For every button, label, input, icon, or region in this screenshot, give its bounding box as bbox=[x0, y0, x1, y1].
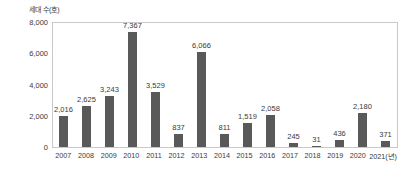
bar-value-label: 436 bbox=[333, 129, 346, 138]
x-axis-tick-label: 2009 bbox=[97, 151, 120, 161]
y-axis-tick-label: 8,000 bbox=[8, 18, 48, 27]
bar[interactable] bbox=[174, 134, 183, 147]
bar-value-label: 31 bbox=[312, 135, 320, 144]
y-axis-tick-label: 4,000 bbox=[8, 81, 48, 90]
bar-slot: 436 bbox=[328, 22, 351, 147]
x-axis-tick-label: 2008 bbox=[75, 151, 98, 161]
x-axis-tick-labels: 2007200820092010201120122013201420152016… bbox=[52, 151, 397, 161]
bar-slot: 2,180 bbox=[351, 22, 374, 147]
x-axis-tick-label: 2016 bbox=[256, 151, 279, 161]
x-axis-tick-label: 2014 bbox=[211, 151, 234, 161]
bar[interactable] bbox=[59, 116, 68, 148]
bar-slot: 3,529 bbox=[144, 22, 167, 147]
x-axis-tick-label: 2010 bbox=[120, 151, 143, 161]
bar-slot: 837 bbox=[167, 22, 190, 147]
y-axis-tick-label: 6,000 bbox=[8, 49, 48, 58]
bar-slot: 31 bbox=[305, 22, 328, 147]
bar-slot: 1,519 bbox=[236, 22, 259, 147]
x-axis-tick-label: 2020 bbox=[347, 151, 370, 161]
bar-value-label: 7,367 bbox=[123, 21, 142, 30]
bar[interactable] bbox=[243, 123, 252, 147]
bar-value-label: 2,058 bbox=[261, 104, 280, 113]
bar-value-label: 1,519 bbox=[238, 112, 257, 121]
bar-value-label: 245 bbox=[287, 132, 300, 141]
bar-value-label: 6,066 bbox=[192, 41, 211, 50]
x-axis-tick-label: 2011 bbox=[143, 151, 166, 161]
bar-slot: 2,058 bbox=[259, 22, 282, 147]
bar-slot: 811 bbox=[213, 22, 236, 147]
y-axis-tick-label: 2,000 bbox=[8, 112, 48, 121]
x-axis-tick-label: 2007 bbox=[52, 151, 75, 161]
x-axis-tick-label: 2017 bbox=[279, 151, 302, 161]
bar-slot: 371 bbox=[374, 22, 397, 147]
y-axis-title: 세대 수(호) bbox=[29, 4, 60, 14]
bar-value-label: 837 bbox=[172, 123, 185, 132]
bar-value-label: 3,529 bbox=[146, 81, 165, 90]
bar-slot: 245 bbox=[282, 22, 305, 147]
bar-value-label: 3,243 bbox=[100, 85, 119, 94]
bar-chart-figure: 세대 수(호) 02,0004,0006,0008,000 2,0162,625… bbox=[0, 0, 416, 172]
bar-value-label: 2,016 bbox=[54, 105, 73, 114]
x-axis-tick-label: 2018 bbox=[301, 151, 324, 161]
bar[interactable] bbox=[82, 106, 91, 147]
y-axis-tick-label: 0 bbox=[8, 143, 48, 152]
bar[interactable] bbox=[312, 146, 321, 147]
bar-slot: 6,066 bbox=[190, 22, 213, 147]
bar-slot: 7,367 bbox=[121, 22, 144, 147]
bar[interactable] bbox=[266, 115, 275, 147]
bar-value-label: 371 bbox=[379, 130, 392, 139]
bar[interactable] bbox=[105, 96, 114, 147]
bar[interactable] bbox=[151, 92, 160, 147]
bar[interactable] bbox=[358, 113, 367, 147]
bar[interactable] bbox=[220, 134, 229, 147]
bar-slot: 2,625 bbox=[75, 22, 98, 147]
x-axis-tick-label: 2012 bbox=[165, 151, 188, 161]
x-axis-tick-label: 2015 bbox=[233, 151, 256, 161]
x-axis-tick-label: 2019 bbox=[324, 151, 347, 161]
bar[interactable] bbox=[128, 32, 137, 147]
bar[interactable] bbox=[381, 141, 390, 147]
bar-slot: 2,016 bbox=[52, 22, 75, 147]
bar[interactable] bbox=[197, 52, 206, 147]
bar-value-label: 2,180 bbox=[353, 102, 372, 111]
bars-container: 2,0162,6253,2437,3673,5298376,0668111,51… bbox=[52, 22, 397, 147]
bar[interactable] bbox=[335, 140, 344, 147]
x-axis-tick-label: 2013 bbox=[188, 151, 211, 161]
bar-value-label: 811 bbox=[219, 123, 231, 132]
x-axis-tick-label: 2021(년) bbox=[369, 151, 397, 161]
bar[interactable] bbox=[289, 143, 298, 147]
bar-slot: 3,243 bbox=[98, 22, 121, 147]
bar-value-label: 2,625 bbox=[77, 95, 96, 104]
